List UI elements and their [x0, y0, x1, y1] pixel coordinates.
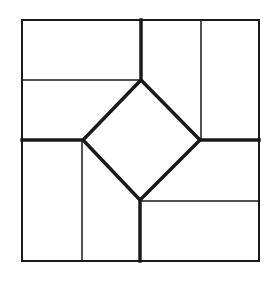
- geometric-diagram: [0, 0, 273, 286]
- center-diamond: [83, 80, 200, 200]
- thick-dividers: [22, 20, 259, 261]
